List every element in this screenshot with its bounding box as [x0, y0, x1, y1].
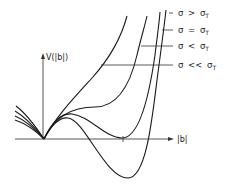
x-axis-arrow-icon	[168, 137, 174, 141]
legend-sigma-equal: σ = σT	[178, 25, 209, 36]
legend-sigma-less: σ < σT	[178, 41, 209, 52]
x-axis-label: |b|	[177, 135, 187, 144]
y-axis-label: V(|b|)	[46, 53, 68, 62]
legend-sigma-much-less: σ << σT	[178, 60, 216, 71]
legend-sigma-greater: σ > σT	[178, 8, 209, 19]
left-branches	[15, 106, 44, 139]
legend: σ > σT σ = σT σ < σT σ << σT	[178, 8, 216, 71]
potential-diagram: V(|b|) |b| σ > σT σ = σT σ	[0, 0, 230, 184]
y-axis-arrow-icon	[41, 53, 45, 59]
